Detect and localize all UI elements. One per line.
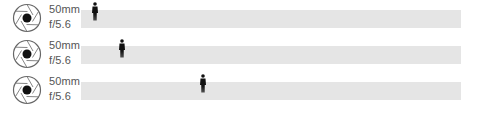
aperture-value: f/5.6 <box>49 53 80 68</box>
lens-row-1: 50mm f/5.6 <box>0 0 477 36</box>
person-icon <box>118 39 126 58</box>
focal-length: 50mm <box>49 38 80 53</box>
focal-length: 50mm <box>49 74 80 89</box>
aperture-icon <box>12 75 42 105</box>
aperture-icon <box>12 3 42 33</box>
lens-row-3: 50mm f/5.6 <box>0 72 477 108</box>
lens-settings: 50mm f/5.6 <box>49 2 80 32</box>
lens-settings: 50mm f/5.6 <box>49 38 80 68</box>
person-icon <box>91 2 99 21</box>
distance-bar <box>81 46 461 64</box>
aperture-icon <box>12 39 42 69</box>
focal-length: 50mm <box>49 2 80 17</box>
distance-bar <box>81 10 461 28</box>
aperture-value: f/5.6 <box>49 17 80 32</box>
distance-bar <box>81 82 461 100</box>
lens-settings: 50mm f/5.6 <box>49 74 80 104</box>
lens-row-2: 50mm f/5.6 <box>0 36 477 72</box>
person-icon <box>199 74 207 93</box>
aperture-value: f/5.6 <box>49 89 80 104</box>
